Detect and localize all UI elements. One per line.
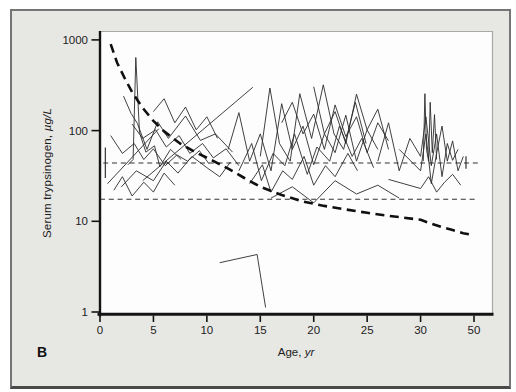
trypsinogen-age-chart (0, 0, 516, 392)
